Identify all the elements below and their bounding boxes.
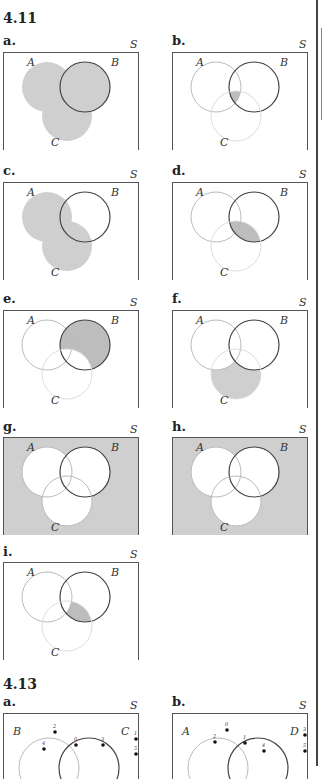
venn-diagram-d: ABCS	[172, 168, 319, 284]
set-label-c: C	[51, 646, 60, 659]
set-label-c: C	[220, 136, 229, 149]
set-label-b: B	[110, 314, 119, 327]
element-point	[42, 747, 46, 751]
universe-label: S	[130, 168, 138, 181]
element-label: 5	[303, 742, 306, 748]
element-point	[243, 741, 247, 745]
set-label-a: A	[26, 566, 35, 579]
set-label-right: C	[121, 725, 130, 738]
set-label-a: A	[195, 314, 204, 327]
element-label: 4	[41, 740, 45, 746]
set-label-a: A	[195, 186, 204, 199]
element-label: 3	[101, 736, 104, 742]
element-label: 2	[52, 723, 56, 729]
set-label-b: B	[279, 314, 288, 327]
set-label-left: B	[12, 725, 21, 738]
set-label-c: C	[220, 521, 229, 534]
element-point	[134, 737, 138, 741]
element-point	[101, 743, 105, 747]
universe-label: S	[299, 296, 307, 309]
set-label-a: A	[26, 314, 35, 327]
set-label-a: A	[195, 56, 204, 69]
set-label-b: B	[110, 56, 119, 69]
venn-diagram-e: ABCS	[3, 296, 150, 412]
venn-diagram-f: ABCS	[172, 296, 319, 412]
set-label-left: A	[181, 725, 190, 738]
section-title-4-13: 4.13	[3, 676, 37, 692]
set-label-right: D	[289, 725, 299, 738]
set-label-b: B	[110, 566, 119, 579]
set-label-c: C	[51, 521, 60, 534]
element-label: 5	[134, 745, 137, 751]
set-label-c: C	[51, 266, 60, 279]
set-label-a: A	[26, 56, 35, 69]
venn-diagram-a: ABCS	[3, 38, 150, 154]
universe-label: S	[130, 548, 138, 561]
element-point	[225, 728, 229, 732]
set-label-a: A	[26, 441, 35, 454]
universe-label: S	[299, 168, 307, 181]
venn-diagram-413-a: BCS240315	[3, 699, 150, 783]
set-label-c: C	[51, 136, 60, 149]
set-label-b: B	[110, 441, 119, 454]
universe-label: S	[299, 38, 307, 51]
venn-diagram-g: ABCS	[3, 423, 150, 539]
element-point	[213, 740, 217, 744]
element-label: 1	[243, 734, 246, 740]
venn-diagram-h: ABCS	[172, 423, 319, 539]
element-label: 4	[261, 742, 265, 748]
element-point	[303, 733, 307, 737]
venn-diagram-b: ABCS	[172, 38, 319, 154]
venn-diagram-i: ABCS	[3, 548, 150, 664]
element-point	[134, 752, 138, 756]
section-title-4-11: 4.11	[3, 10, 37, 26]
element-point	[303, 749, 307, 753]
set-label-b: B	[110, 186, 119, 199]
set-label-c: C	[220, 394, 229, 407]
set-label-a: A	[195, 441, 204, 454]
universe-label: S	[299, 699, 307, 712]
venn-diagram-413-b: ADS021435	[172, 699, 319, 783]
set-label-b: B	[279, 56, 288, 69]
venn-diagram-c: ABCS	[3, 168, 150, 284]
element-label: 2	[212, 733, 216, 739]
element-point	[262, 749, 266, 753]
element-point	[53, 730, 57, 734]
set-label-b: B	[279, 441, 288, 454]
element-label: 3	[303, 726, 306, 732]
set-label-a: A	[26, 186, 35, 199]
set-label-c: C	[220, 266, 229, 279]
universe-label: S	[130, 423, 138, 436]
universe-label: S	[299, 423, 307, 436]
element-point	[74, 743, 78, 747]
set-label-c: C	[51, 394, 60, 407]
set-label-b: B	[279, 186, 288, 199]
adjacent-column-edge	[321, 28, 323, 120]
element-label: 1	[134, 730, 137, 736]
universe-label: S	[130, 38, 138, 51]
universe-label: S	[130, 296, 138, 309]
universe-label: S	[130, 699, 138, 712]
